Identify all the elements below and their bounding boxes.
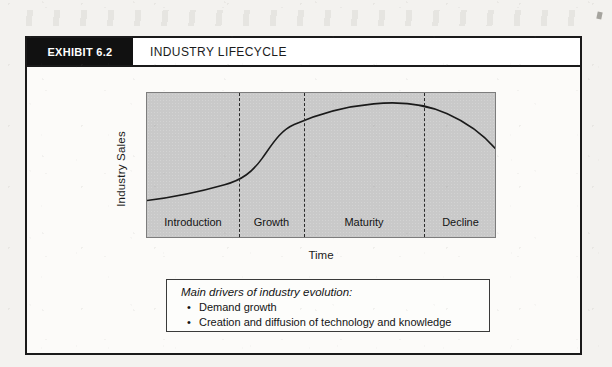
exhibit-badge: EXHIBIT 6.2	[27, 38, 133, 65]
stage-label-growth: Growth	[239, 216, 304, 228]
drivers-box: Main drivers of industry evolution: • De…	[166, 279, 490, 332]
driver-item-label: Demand growth	[199, 301, 277, 313]
x-axis-label: Time	[146, 249, 496, 261]
chart-plot-area: Introduction Growth Maturity Decline	[146, 92, 496, 238]
driver-item: • Demand growth	[181, 300, 489, 315]
y-axis-label: Industry Sales	[115, 114, 127, 224]
drivers-heading: Main drivers of industry evolution:	[181, 286, 489, 298]
driver-item-label: Creation and diffusion of technology and…	[199, 316, 451, 328]
bullet-icon: •	[187, 300, 191, 315]
stage-label-introduction: Introduction	[147, 216, 239, 228]
bullet-icon: •	[187, 315, 191, 330]
scan-smudge	[18, 10, 578, 26]
exhibit-header: EXHIBIT 6.2 INDUSTRY LIFECYCLE	[27, 38, 580, 67]
stage-label-maturity: Maturity	[304, 216, 424, 228]
exhibit-title: INDUSTRY LIFECYCLE	[133, 38, 580, 65]
scan-corner-mark	[596, 12, 602, 20]
exhibit-frame: EXHIBIT 6.2 INDUSTRY LIFECYCLE Industry …	[25, 36, 582, 355]
industry-lifecycle-chart: Industry Sales Introduction Growth Matur…	[27, 67, 580, 355]
stage-label-decline: Decline	[424, 216, 496, 228]
driver-item: • Creation and diffusion of technology a…	[181, 315, 489, 330]
